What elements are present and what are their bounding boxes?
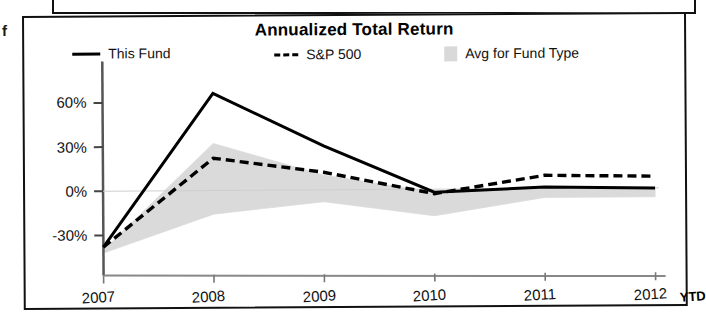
x-axis-line	[104, 272, 666, 279]
y-axis-label: 60%	[26, 95, 86, 110]
x-axis-label: 2009	[302, 287, 336, 304]
axis-layer	[93, 58, 665, 283]
annualized-total-return-panel: Annualized Total Return This Fund S&P 50…	[22, 12, 688, 310]
x-axis-label: 2007	[81, 289, 115, 306]
x-axis-label: 2012	[633, 285, 667, 302]
plot-area: -30%0%30%60% 200720082009201020112012YTD	[24, 14, 686, 308]
plot-svg	[24, 14, 686, 308]
avg-fund-type-band	[103, 141, 656, 253]
y-axis-label: -30%	[27, 228, 87, 243]
x-axis-ytd-label: YTD	[679, 288, 706, 304]
x-axis-label: 2010	[412, 287, 446, 304]
x-axis-label: 2011	[523, 286, 556, 303]
x-axis-label: 2008	[192, 288, 226, 305]
avg-fund-type-band-layer	[103, 141, 656, 253]
y-axis-label: 0%	[27, 183, 87, 198]
y-axis-line	[102, 62, 103, 276]
margin-stray-letter: f	[2, 22, 7, 39]
y-axis-label: 30%	[27, 139, 87, 154]
